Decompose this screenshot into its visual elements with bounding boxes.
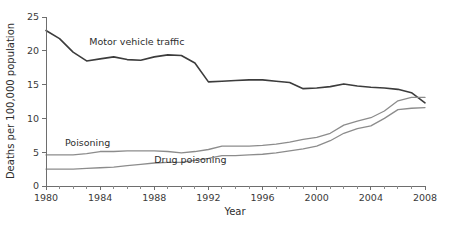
y-tick-label-5: 5 bbox=[33, 147, 39, 158]
x-tick-label-1980: 1980 bbox=[34, 192, 58, 203]
y-tick-label-20: 20 bbox=[27, 45, 39, 56]
series-label-drug-poisoning: Drug poisoning bbox=[154, 154, 226, 165]
series-annotations: Motor vehicle trafficPoisoningDrug poiso… bbox=[65, 36, 227, 165]
x-axis-title: Year bbox=[223, 206, 246, 217]
series-label-motor-vehicle-traffic: Motor vehicle traffic bbox=[89, 36, 184, 47]
y-tick-label-15: 15 bbox=[27, 79, 39, 90]
chart-container: 0510152025 19801984198819921996200020042… bbox=[0, 0, 452, 234]
series-label-poisoning: Poisoning bbox=[65, 137, 110, 148]
y-tick-label-10: 10 bbox=[27, 113, 39, 124]
series-layer bbox=[46, 31, 425, 170]
x-tick-label-1996: 1996 bbox=[250, 192, 274, 203]
y-axis-title: Deaths per 100,000 population bbox=[5, 23, 16, 179]
y-tick-label-0: 0 bbox=[33, 180, 39, 191]
line-chart: 0510152025 19801984198819921996200020042… bbox=[0, 0, 452, 234]
cropped-caption bbox=[4, 226, 448, 234]
x-tick-label-1984: 1984 bbox=[88, 192, 112, 203]
y-tick-label-25: 25 bbox=[27, 11, 39, 22]
x-tick-label-1992: 1992 bbox=[196, 192, 220, 203]
x-tick-label-2008: 2008 bbox=[413, 192, 437, 203]
x-tick-label-2000: 2000 bbox=[305, 192, 329, 203]
x-axis-ticks: 19801984198819921996200020042008 bbox=[34, 186, 437, 203]
x-tick-label-2004: 2004 bbox=[359, 192, 383, 203]
x-tick-label-1988: 1988 bbox=[142, 192, 166, 203]
y-axis-ticks: 0510152025 bbox=[27, 11, 46, 191]
